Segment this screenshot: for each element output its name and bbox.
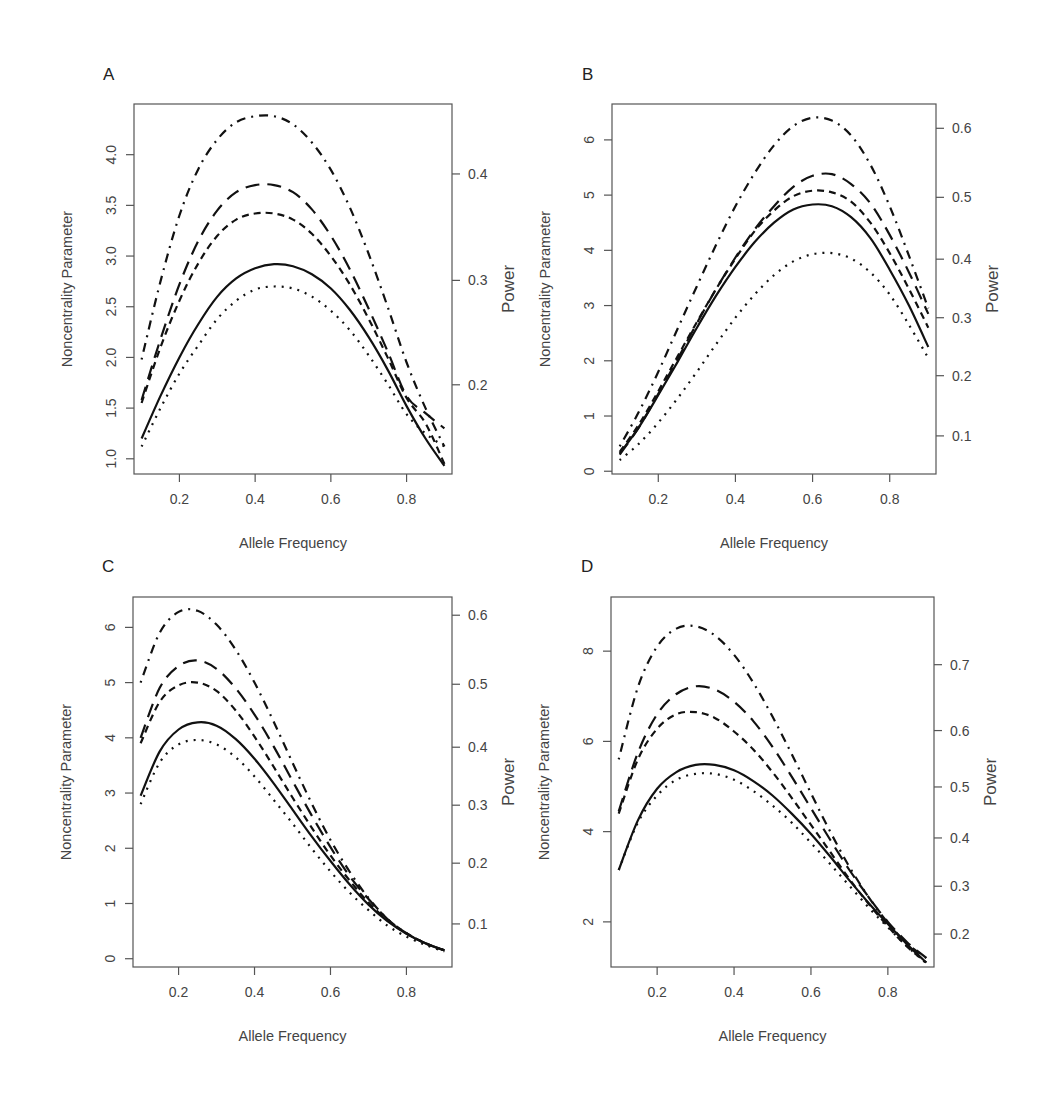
y-tick-label: 2 <box>581 357 597 365</box>
power-tick-label: 0.3 <box>952 310 972 326</box>
power-tick-label: 0.4 <box>468 739 488 755</box>
power-tick-label: 0.5 <box>950 779 970 795</box>
power-tick-label: 0.2 <box>952 368 972 384</box>
power-tick-label: 0.3 <box>950 878 970 894</box>
x-tick-label: 0.6 <box>321 491 341 507</box>
figure-background <box>0 0 1055 1102</box>
y-tick-label: 1 <box>102 899 118 907</box>
power-tick-label: 0.5 <box>952 189 972 205</box>
y-tick-label: 5 <box>102 678 118 686</box>
power-tick-label: 0.3 <box>468 272 488 288</box>
x-tick-label: 0.2 <box>647 984 667 1000</box>
x-axis-title: Allele Frequency <box>720 535 829 551</box>
y-tick-label: 3.5 <box>103 195 119 215</box>
y-tick-label: 4 <box>581 246 597 254</box>
power-tick-label: 0.6 <box>952 120 972 136</box>
x-tick-label: 0.4 <box>245 491 265 507</box>
x-tick-label: 0.2 <box>170 491 190 507</box>
power-axis-title: Power <box>983 265 1002 314</box>
y-tick-label: 4 <box>102 734 118 742</box>
y-tick-label: 1 <box>581 412 597 420</box>
power-tick-label: 0.2 <box>468 855 488 871</box>
y-axis-title: Noncentrality Parameter <box>537 211 553 368</box>
x-tick-label: 0.2 <box>649 491 669 507</box>
power-tick-label: 0.6 <box>468 607 488 623</box>
y-axis-title: Noncentrality Parameter <box>58 704 74 861</box>
power-axis-title: Power <box>981 758 1000 807</box>
y-axis-title: Noncentrality Parameter <box>536 704 552 861</box>
y-tick-label: 2 <box>580 918 596 926</box>
power-tick-label: 0.1 <box>468 916 488 932</box>
x-axis-title: Allele Frequency <box>239 1028 348 1044</box>
x-tick-label: 0.8 <box>397 984 417 1000</box>
y-tick-label: 3 <box>581 301 597 309</box>
y-tick-label: 2 <box>102 844 118 852</box>
power-tick-label: 0.4 <box>950 830 970 846</box>
panel-label: D <box>581 557 593 576</box>
x-axis-title: Allele Frequency <box>719 1028 828 1044</box>
x-tick-label: 0.4 <box>726 491 746 507</box>
y-tick-label: 3.0 <box>103 246 119 266</box>
power-tick-label: 0.7 <box>950 657 970 673</box>
y-axis-title: Noncentrality Parameter <box>59 211 75 368</box>
y-tick-label: 6 <box>580 737 596 745</box>
figure: A0.20.40.60.81.01.52.02.53.03.54.00.20.3… <box>0 0 1055 1102</box>
power-tick-label: 0.3 <box>468 797 488 813</box>
y-tick-label: 8 <box>580 647 596 655</box>
x-tick-label: 0.8 <box>880 491 900 507</box>
power-tick-label: 0.1 <box>952 428 972 444</box>
y-tick-label: 6 <box>102 623 118 631</box>
y-tick-label: 2.5 <box>103 297 119 317</box>
panel-label: C <box>102 557 114 576</box>
y-tick-label: 3 <box>102 789 118 797</box>
y-tick-label: 0 <box>102 955 118 963</box>
x-tick-label: 0.6 <box>321 984 341 1000</box>
y-tick-label: 5 <box>581 191 597 199</box>
power-axis-title: Power <box>499 758 518 807</box>
y-tick-label: 2.0 <box>103 347 119 367</box>
panel-label: A <box>103 65 115 84</box>
x-tick-label: 0.2 <box>169 984 189 1000</box>
y-tick-label: 0 <box>581 467 597 475</box>
x-tick-label: 0.8 <box>397 491 417 507</box>
power-tick-label: 0.4 <box>952 251 972 267</box>
x-tick-label: 0.6 <box>803 491 823 507</box>
x-tick-label: 0.4 <box>245 984 265 1000</box>
y-tick-label: 4 <box>580 828 596 836</box>
power-tick-label: 0.6 <box>950 723 970 739</box>
x-tick-label: 0.6 <box>801 984 821 1000</box>
y-tick-label: 6 <box>581 136 597 144</box>
y-tick-label: 1.0 <box>103 449 119 469</box>
y-tick-label: 1.5 <box>103 398 119 418</box>
y-tick-label: 4.0 <box>103 145 119 165</box>
panel-label: B <box>582 65 593 84</box>
power-axis-title: Power <box>499 265 518 314</box>
x-axis-title: Allele Frequency <box>239 535 348 551</box>
x-tick-label: 0.8 <box>878 984 898 1000</box>
power-tick-label: 0.4 <box>468 166 488 182</box>
x-tick-label: 0.4 <box>724 984 744 1000</box>
power-tick-label: 0.5 <box>468 676 488 692</box>
power-tick-label: 0.2 <box>950 926 970 942</box>
power-tick-label: 0.2 <box>468 377 488 393</box>
